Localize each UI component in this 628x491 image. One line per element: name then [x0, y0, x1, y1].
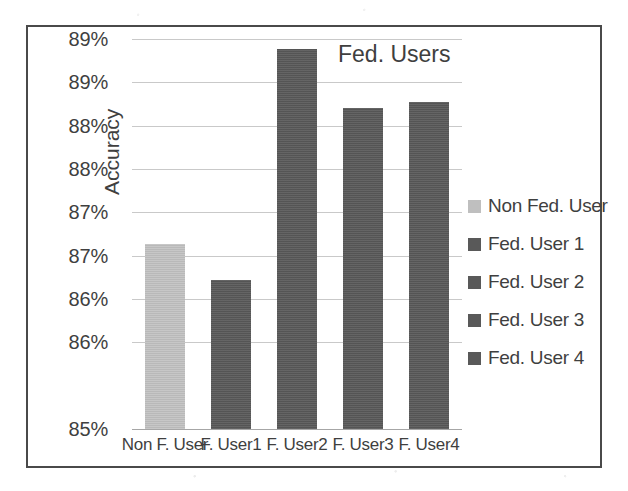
x-tick-label: Non F. User — [122, 435, 208, 455]
bar-f-user1[interactable] — [211, 280, 251, 429]
bar-non-f-user[interactable] — [145, 244, 185, 429]
y-axis-labels: 89%89%88%88%87%87%86%86%85% — [36, 39, 108, 429]
legend-swatch-icon — [468, 238, 481, 251]
legend-label: Fed. User 2 — [488, 271, 584, 293]
y-tick-label: 85% — [69, 418, 108, 441]
y-tick-label: 86% — [69, 331, 108, 354]
y-axis-title: Accuracy — [100, 109, 124, 195]
legend-swatch-icon — [468, 314, 481, 327]
legend-item[interactable]: Fed. User 4 — [468, 339, 598, 377]
x-axis-labels: Non F. UserF. User1F. User2F. User3F. Us… — [124, 435, 474, 467]
chart-frame: 89%89%88%88%87%87%86%86%85% Accuracy Non… — [26, 25, 602, 468]
legend-label: Fed. User 1 — [488, 233, 584, 255]
legend-item[interactable]: Non Fed. User — [468, 187, 598, 225]
plot-area — [132, 39, 462, 429]
legend-label: Non Fed. User — [488, 195, 608, 217]
bar-f-user3[interactable] — [343, 108, 383, 429]
y-tick-label: 89% — [69, 71, 108, 94]
legend-item[interactable]: Fed. User 2 — [468, 263, 598, 301]
legend-item[interactable]: Fed. User 3 — [468, 301, 598, 339]
legend-swatch-icon — [468, 352, 481, 365]
x-tick-label: F. User3 — [333, 435, 394, 455]
legend-item[interactable]: Fed. User 1 — [468, 225, 598, 263]
x-tick-label: F. User2 — [267, 435, 328, 455]
legend-label: Fed. User 4 — [488, 347, 584, 369]
legend-swatch-icon — [468, 276, 481, 289]
gridline — [132, 39, 462, 40]
y-tick-label: 87% — [69, 201, 108, 224]
y-tick-label: 87% — [69, 244, 108, 267]
bar-f-user4[interactable] — [409, 102, 449, 429]
y-tick-label: 89% — [69, 28, 108, 51]
chart-title: Fed. Users — [338, 41, 450, 68]
x-tick-label: F. User4 — [399, 435, 460, 455]
gridline — [132, 429, 462, 430]
chart-legend: Non Fed. UserFed. User 1Fed. User 2Fed. … — [468, 187, 598, 377]
bar-f-user2[interactable] — [277, 49, 317, 429]
x-tick-label: F. User1 — [201, 435, 262, 455]
legend-label: Fed. User 3 — [488, 309, 584, 331]
legend-swatch-icon — [468, 200, 481, 213]
y-tick-label: 86% — [69, 288, 108, 311]
